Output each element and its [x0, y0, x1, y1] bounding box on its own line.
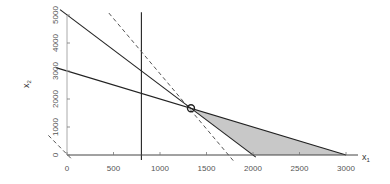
x-tick-label: 3000 [337, 164, 355, 173]
y-tick-label: 1000 [51, 118, 60, 136]
constraint-2-line [56, 68, 346, 155]
y-tick-label: 0 [51, 152, 60, 157]
x-tick-label: 2500 [291, 164, 309, 173]
y-tick-label: 2000 [51, 90, 60, 108]
x-axis-label: x1 [362, 152, 371, 163]
x-tick-label: 0 [65, 164, 70, 173]
x-tick-label: 1500 [198, 164, 216, 173]
y-axis-label: x2 [21, 80, 32, 89]
y-tick-label: 4000 [51, 34, 60, 52]
x-tick-label: 1000 [151, 164, 169, 173]
x-tick-label: 500 [107, 164, 121, 173]
lp-chart: 050010001500200025003000 010002000300040… [0, 0, 390, 184]
y-tick-label: 3000 [51, 62, 60, 80]
constraint-1-line [60, 10, 256, 157]
x-tick-label: 2000 [244, 164, 262, 173]
objective-optimal-line [109, 13, 235, 162]
constraint-lines [48, 10, 346, 162]
y-tick-label: 5000 [51, 6, 60, 24]
axes [67, 15, 358, 155]
